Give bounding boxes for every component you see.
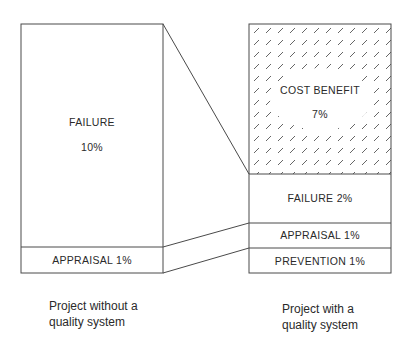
left-caption-line2: quality system [49, 314, 138, 330]
right-failure-label: FAILURE 2% [249, 192, 391, 204]
cost-benefit-label-bg [270, 68, 372, 130]
cost-benefit-value: 7% [249, 108, 391, 120]
left-caption-line1: Project without a [49, 298, 138, 314]
right-appraisal-label: APPRAISAL 1% [249, 229, 391, 241]
diagram-canvas [0, 0, 410, 343]
right-caption-line1: Project with a [282, 301, 358, 317]
left-failure-label: FAILURE [21, 116, 163, 128]
right-caption: Project with a quality system [282, 301, 358, 333]
left-appraisal-label: APPRAISAL 1% [21, 254, 163, 266]
right-prevention-label: PREVENTION 1% [249, 255, 391, 267]
connector-lines [163, 24, 249, 273]
left-caption: Project without a quality system [49, 298, 138, 330]
cost-benefit-label: COST BENEFIT [249, 84, 391, 96]
left-failure-value: 10% [21, 141, 163, 153]
right-caption-line2: quality system [282, 317, 358, 333]
